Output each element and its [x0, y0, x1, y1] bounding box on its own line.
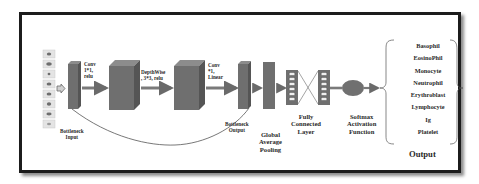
- bottleneck-output-label: Bottleneck Output: [225, 122, 249, 134]
- depthwise-cube: [174, 60, 205, 110]
- class-lymphocyte: Lymphocyte: [411, 101, 444, 113]
- gap-block: [263, 62, 275, 109]
- expansion-cube: [109, 60, 140, 110]
- fc-connections: [298, 71, 318, 104]
- class-basophil: Basophil: [416, 40, 439, 52]
- output-class-list: Basophil EosinoPhil Monocyte Neutrophil …: [393, 40, 463, 138]
- output-title: Output: [409, 150, 436, 160]
- output-brace-left: [380, 40, 394, 144]
- conv2-label: Conv *1, Linear: [208, 63, 223, 80]
- bottleneck-output-block: [238, 61, 251, 109]
- input-arrow: [57, 84, 65, 93]
- depthwise-label: DepthWise , 3*3, relu: [141, 70, 165, 82]
- class-platelet: Platelet: [418, 126, 438, 138]
- bottleneck-input-label: Bottleneck Input: [60, 129, 84, 141]
- class-erythroblast: Erythroblast: [411, 89, 446, 101]
- class-neutrophil: Neutrophil: [413, 77, 442, 89]
- class-ig: Ig: [425, 114, 431, 126]
- input-thumbnails: [43, 50, 55, 128]
- conv1-label: Conv 1*1, relu: [84, 62, 96, 79]
- softmax-label: Softmax Activation Function: [347, 113, 376, 135]
- bottleneck-input-block: [68, 61, 81, 109]
- skip-connection: [72, 108, 249, 145]
- class-monocyte: Monocyte: [415, 65, 442, 77]
- fc-label: Fully Connected Layer: [291, 113, 321, 135]
- softmax-node: [342, 80, 364, 96]
- gap-label: Global Average Pooling: [259, 131, 282, 153]
- fc-layer-2: [318, 70, 330, 105]
- fc-layer-1: [286, 70, 298, 105]
- class-eosinophil: EosinoPhil: [413, 52, 442, 64]
